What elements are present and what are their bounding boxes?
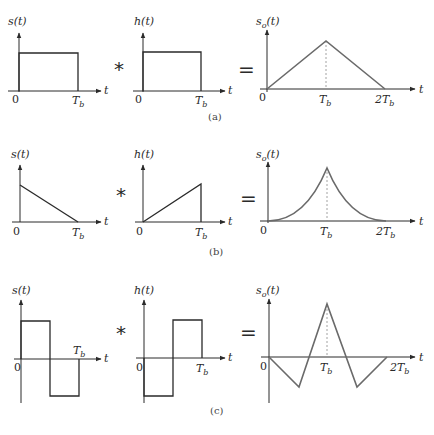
row-a-output-plot: so(t) 0 Tb 2Tb t bbox=[256, 15, 424, 108]
caption-a: (a) bbox=[208, 111, 222, 122]
ramp-down bbox=[20, 185, 78, 222]
tb-label: Tb bbox=[320, 361, 332, 376]
filter-label: h(t) bbox=[134, 284, 154, 297]
origin-label: 0 bbox=[14, 361, 21, 374]
tb-label: Tb bbox=[73, 344, 85, 359]
t-label: t bbox=[228, 351, 233, 364]
input-label: s(t) bbox=[12, 284, 31, 297]
tb-label: Tb bbox=[320, 225, 332, 240]
origin-label: 0 bbox=[260, 224, 267, 237]
convolve-operator: * bbox=[116, 321, 126, 345]
origin-label: 0 bbox=[12, 93, 19, 106]
convolve-operator: * bbox=[116, 183, 126, 207]
tb-label: Tb bbox=[72, 94, 84, 109]
figure-canvas: s(t) 0 Tb t * h(t) 0 Tb t = so(t) 0 bbox=[0, 0, 434, 435]
input-label: s(t) bbox=[8, 15, 27, 28]
origin-label: 0 bbox=[135, 93, 142, 106]
t-label: t bbox=[104, 215, 109, 228]
equals-operator: = bbox=[240, 320, 257, 344]
rect-pulse bbox=[19, 53, 78, 91]
filter-label: h(t) bbox=[134, 148, 154, 161]
t-label: t bbox=[419, 215, 424, 228]
tb-label: Tb bbox=[196, 362, 208, 377]
matched-filter-convolution-figure: s(t) 0 Tb t * h(t) 0 Tb t = so(t) 0 bbox=[0, 0, 434, 435]
ramp-up bbox=[143, 184, 201, 222]
tb-label: Tb bbox=[72, 226, 84, 241]
rect-pulse bbox=[143, 52, 201, 91]
t-label: t bbox=[419, 83, 424, 96]
two-tb-label: 2Tb bbox=[389, 361, 409, 376]
tb-label: Tb bbox=[195, 94, 207, 109]
output-label: so(t) bbox=[256, 284, 280, 299]
caption-c: (c) bbox=[210, 405, 224, 416]
caption-b: (b) bbox=[209, 246, 223, 257]
input-label: s(t) bbox=[11, 148, 30, 161]
convolve-operator: * bbox=[114, 57, 124, 81]
t-label: t bbox=[228, 215, 233, 228]
t-label: t bbox=[419, 351, 424, 364]
t-label: t bbox=[104, 84, 109, 97]
output-label: so(t) bbox=[256, 148, 280, 163]
tb-label: Tb bbox=[319, 93, 331, 108]
two-tb-label: 2Tb bbox=[375, 225, 395, 240]
row-c-filter-plot: h(t) 0 Tb t bbox=[134, 284, 233, 403]
origin-label: 0 bbox=[136, 225, 143, 238]
t-label: t bbox=[228, 84, 233, 97]
equals-operator: = bbox=[240, 186, 257, 210]
row-b-input-plot: s(t) 0 Tb t bbox=[11, 148, 109, 241]
row-a: s(t) 0 Tb t * h(t) 0 Tb t = so(t) 0 bbox=[8, 15, 424, 122]
tb-label: Tb bbox=[195, 226, 207, 241]
row-a-input-plot: s(t) 0 Tb t bbox=[8, 15, 109, 109]
row-b-filter-plot: h(t) 0 Tb t bbox=[134, 148, 233, 241]
row-a-filter-plot: h(t) 0 Tb t bbox=[133, 15, 233, 109]
two-tb-label: 2Tb bbox=[374, 93, 394, 108]
row-c: s(t) 0 Tb t * h(t) 0 Tb t = so(t) 0 Tb bbox=[12, 284, 424, 416]
row-b: s(t) 0 Tb t * h(t) 0 Tb t = so(t) 0 Tb bbox=[11, 148, 424, 257]
output-label: so(t) bbox=[256, 15, 280, 30]
origin-label: 0 bbox=[136, 361, 143, 374]
t-label: t bbox=[104, 352, 109, 365]
origin-label: 0 bbox=[260, 360, 267, 373]
origin-label: 0 bbox=[13, 225, 20, 238]
row-c-input-plot: s(t) 0 Tb t bbox=[12, 284, 109, 403]
equals-operator: = bbox=[238, 57, 255, 81]
row-b-output-plot: so(t) 0 Tb 2Tb t bbox=[256, 148, 424, 240]
origin-label: 0 bbox=[259, 91, 266, 104]
filter-label: h(t) bbox=[134, 15, 154, 28]
row-c-output-plot: so(t) 0 Tb 2Tb t bbox=[256, 284, 424, 403]
